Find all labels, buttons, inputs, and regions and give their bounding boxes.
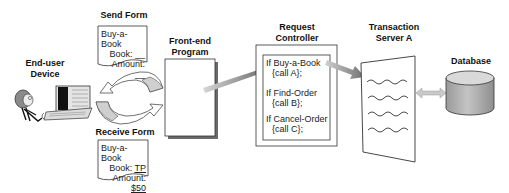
rule-condition: If Cancel-Order: [266, 114, 330, 124]
double-arrow-server-database: [416, 88, 446, 98]
send-form-amount-row: Amount: __: [101, 59, 147, 79]
front-end-program-box: [165, 59, 218, 139]
rule-buy-a-book: If Buy-a-Book {call A};: [266, 58, 330, 78]
amount-field-value: $50: [131, 183, 146, 193]
receive-form-book-row: Book: TP: [101, 163, 148, 173]
label-line: Device: [20, 69, 70, 80]
amount-field-value: __: [135, 69, 145, 79]
label-line: Front-end: [160, 36, 220, 47]
transaction-server-box: [361, 56, 415, 162]
label-line: Transaction: [364, 22, 424, 33]
book-field-label: Book:: [109, 163, 132, 173]
label-line: Server A: [364, 33, 424, 44]
rule-find-order: If Find-Order {call B};: [266, 88, 330, 108]
rule-condition: If Find-Order: [266, 88, 330, 98]
diagram-canvas: [0, 0, 509, 193]
send-form-line1: Buy-a-Book: [101, 29, 147, 49]
end-user-person-icon: [15, 90, 42, 121]
book-field-value: TP: [134, 163, 146, 173]
receive-form-content: Buy-a-Book Book: TP Amount: $50: [101, 143, 148, 193]
database-label: Database: [444, 56, 498, 67]
cycle-arrows-icon: [96, 72, 163, 124]
book-field-label: Book:: [109, 49, 132, 59]
computer-terminal-icon: [42, 86, 92, 120]
receive-form-amount-row: Amount: $50: [101, 173, 148, 193]
send-form-content: Buy-a-Book Book: __ Amount: __: [101, 29, 147, 79]
label-line: Program: [160, 47, 220, 58]
rule-condition: If Buy-a-Book: [266, 58, 330, 68]
send-form-title: Send Form: [96, 10, 152, 21]
amount-field-label: Amount:: [112, 173, 146, 183]
database-cylinder-icon: [446, 71, 494, 115]
request-controller-label: Request Controller: [266, 22, 328, 44]
controller-rules: If Buy-a-Book {call A}; If Find-Order {c…: [266, 58, 330, 134]
transaction-server-label: Transaction Server A: [364, 22, 424, 44]
label-line: Controller: [266, 33, 328, 44]
receive-form-title: Receive Form: [94, 127, 156, 138]
label-line: Request: [266, 22, 328, 33]
label-line: End-user: [20, 58, 70, 69]
amount-field-label: Amount:: [111, 59, 145, 69]
rule-action: {call B};: [266, 98, 330, 108]
end-user-device-label: End-user Device: [20, 58, 70, 80]
book-field-value: __: [135, 49, 145, 59]
rule-action: {call C};: [266, 124, 330, 134]
send-form-book-row: Book: __: [101, 49, 147, 59]
front-end-program-label: Front-end Program: [160, 36, 220, 58]
receive-form-line1: Buy-a-Book: [101, 143, 148, 163]
rule-action: {call A};: [266, 68, 330, 78]
rule-cancel-order: If Cancel-Order {call C};: [266, 114, 330, 134]
